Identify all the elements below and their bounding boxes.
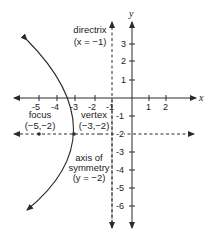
focus-point <box>37 132 41 136</box>
vertex-label: vertex (−3,−2) <box>77 110 111 131</box>
x-tick-label: 2 <box>163 102 168 112</box>
x-tick-label: 1 <box>146 102 151 112</box>
directrix-name: directrix <box>70 25 110 35</box>
vertex-point <box>72 132 76 136</box>
focus-coordinates: (−5,−2) <box>22 121 58 131</box>
y-tick-label: -4 <box>116 165 124 175</box>
y-tick-label: -5 <box>116 183 124 193</box>
y-tick-label: 1 <box>121 75 126 85</box>
vertex-name: vertex <box>77 110 111 120</box>
x-axis-label: x <box>199 92 203 103</box>
y-tick-label: -3 <box>116 147 124 157</box>
y-tick-label: -1 <box>116 111 124 121</box>
y-tick-label: 2 <box>121 56 126 66</box>
y-tick-label: 3 <box>121 39 126 49</box>
y-tick-label: -2 <box>116 129 124 139</box>
axis-equation: (y = −2) <box>68 173 110 183</box>
vertex-coordinates: (−3,−2) <box>77 121 111 131</box>
y-tick-label: -6 <box>116 201 124 211</box>
directrix-label: directrix (x = −1) <box>70 25 110 47</box>
directrix-equation: (x = −1) <box>70 37 110 47</box>
focus-name: focus <box>22 110 58 120</box>
y-axis-label: y <box>129 8 133 19</box>
axis-of-symmetry-label: axis of symmetry (y = −2) <box>68 153 110 183</box>
focus-label: focus (−5,−2) <box>22 110 58 131</box>
